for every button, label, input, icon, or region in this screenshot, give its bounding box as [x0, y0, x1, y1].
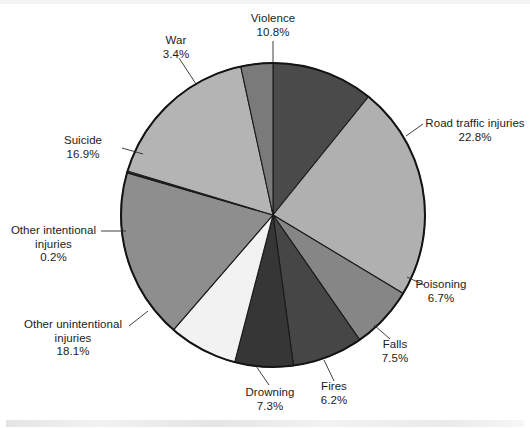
pie-label-road-traffic-injuries: Road traffic injuries 22.8% [420, 117, 530, 144]
pie-label-fires-name: Fires [298, 380, 370, 394]
caption-smudge [6, 420, 524, 427]
pie-label-poisoning: Poisoning 6.7% [396, 278, 486, 305]
pie-label-war-name: War [126, 34, 226, 48]
pie-label-other-intentional-injuries: Other intentional injuries 0.2% [5, 224, 102, 265]
pie-label-fires: Fires 6.2% [298, 380, 370, 407]
pie-label-suicide-value: 16.9% [44, 148, 122, 162]
pie-label-violence-value: 10.8% [213, 26, 333, 40]
pie-label-suicide-name: Suicide [44, 134, 122, 148]
pie-label-suicide: Suicide 16.9% [44, 134, 122, 161]
pie-label-road-name: Road traffic injuries [420, 117, 530, 131]
pie-label-other-unintentional-value: 18.1% [17, 345, 129, 359]
pie-chart-graphic [0, 0, 530, 428]
pie-label-war-value: 3.4% [126, 48, 226, 62]
pie-label-other-unintentional-injuries: Other unintentional injuries 18.1% [17, 318, 129, 359]
pie-label-other-unintentional-line2: injuries [17, 332, 129, 346]
pie-label-other-intentional-line2: injuries [5, 238, 102, 252]
pie-chart-page: Violence 10.8% War 3.4% Suicide 16.9% Ot… [0, 0, 530, 428]
pie-label-poisoning-name: Poisoning [396, 278, 486, 292]
leader-line-war [179, 58, 196, 84]
leader-line-falls [374, 325, 390, 339]
pie-label-war: War 3.4% [126, 34, 226, 61]
pie-label-falls-value: 7.5% [360, 352, 430, 366]
pie-label-poisoning-value: 6.7% [396, 292, 486, 306]
pie-label-falls-name: Falls [360, 338, 430, 352]
pie-label-falls: Falls 7.5% [360, 338, 430, 365]
pie-label-other-intentional-line1: Other intentional [5, 224, 102, 238]
pie-label-road-value: 22.8% [420, 131, 530, 145]
leader-line-drowning [256, 366, 269, 385]
pie-label-other-unintentional-line1: Other unintentional [17, 318, 129, 332]
pie-label-violence-name: Violence [213, 12, 333, 26]
leader-line-fires [324, 360, 334, 381]
pie-label-fires-value: 6.2% [298, 394, 370, 408]
pie-label-other-intentional-value: 0.2% [5, 251, 102, 265]
pie-label-violence: Violence 10.8% [213, 12, 333, 39]
leader-line-other-unint [129, 311, 148, 326]
pie-slices [121, 63, 425, 367]
page-bottom-strip [0, 412, 530, 428]
